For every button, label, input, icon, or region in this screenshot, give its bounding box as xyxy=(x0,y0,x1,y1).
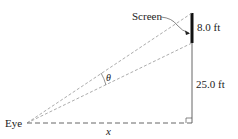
screen-label: Screen xyxy=(132,10,162,22)
screen-height-label: 8.0 ft xyxy=(197,21,220,33)
base-height-label: 25.0 ft xyxy=(196,78,225,90)
theta-label: θ xyxy=(106,72,111,83)
sightline-to-screen-top xyxy=(27,13,192,123)
sightline-to-screen-bottom xyxy=(27,43,192,123)
eye-label: Eye xyxy=(5,117,22,129)
right-angle-marker xyxy=(186,118,192,123)
arrowhead-icon xyxy=(185,31,190,36)
screen-viewing-angle-diagram: Screen 8.0 ft 25.0 ft Eye x θ xyxy=(0,0,238,139)
distance-x-label: x xyxy=(105,125,111,137)
